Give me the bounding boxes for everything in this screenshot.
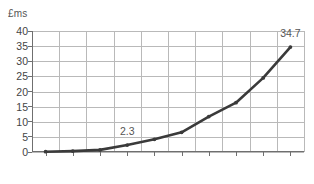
y-tick-label: 40 — [16, 25, 28, 37]
series-line — [32, 31, 304, 152]
point-value-label: 34.7 — [280, 27, 300, 39]
x-tick-mark — [127, 152, 128, 156]
plot-area: 0510152025303540 20052006200720082009201… — [32, 31, 304, 152]
series-markers — [44, 45, 293, 153]
data-point-marker — [180, 130, 184, 134]
data-point-marker — [289, 45, 293, 49]
x-tick-mark — [100, 152, 101, 156]
data-point-marker — [261, 76, 265, 80]
y-tick-label: 35 — [16, 40, 28, 52]
gridline-vertical — [304, 31, 305, 152]
x-tick-mark — [209, 152, 210, 156]
data-point-marker — [44, 150, 48, 154]
x-tick-mark — [236, 152, 237, 156]
y-tick-label: 30 — [16, 55, 28, 67]
y-tick-label: 20 — [16, 86, 28, 98]
x-tick-mark — [263, 152, 264, 156]
data-point-marker — [125, 143, 129, 147]
data-point-marker — [71, 149, 75, 153]
x-tick-mark — [290, 152, 291, 156]
y-axis-unit-label: £ms — [8, 8, 28, 19]
chart-container: £ms 0510152025303540 2005200620072008200… — [0, 0, 314, 184]
y-tick-label: 5 — [22, 131, 28, 143]
x-tick-mark — [154, 152, 155, 156]
y-tick-label: 10 — [16, 116, 28, 128]
data-point-marker — [153, 137, 157, 141]
data-point-marker — [234, 101, 238, 105]
x-tick-mark — [182, 152, 183, 156]
data-point-marker — [98, 148, 102, 152]
y-tick-label: 0 — [22, 146, 28, 158]
y-tick-label: 25 — [16, 70, 28, 82]
y-tick-label: 15 — [16, 101, 28, 113]
data-point-marker — [207, 115, 211, 119]
point-value-label: 2.3 — [120, 125, 135, 137]
